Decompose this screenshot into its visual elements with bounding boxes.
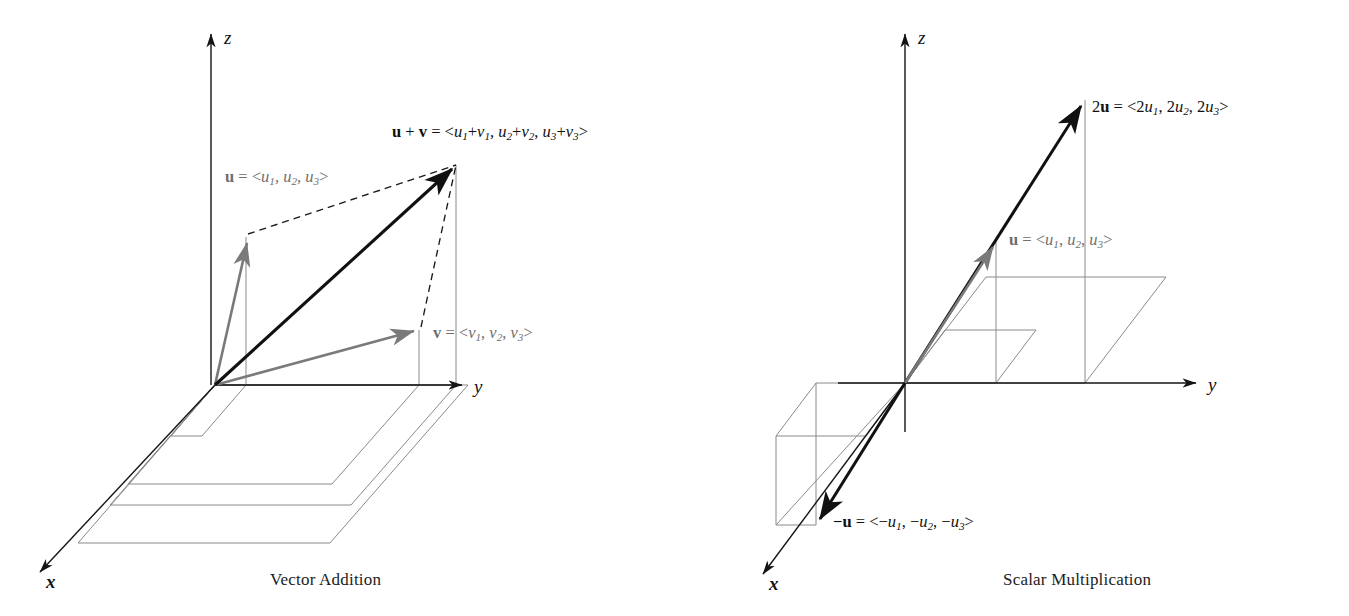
vector-neg-u-right	[820, 383, 905, 519]
label-u-left-c3: u	[305, 167, 313, 186]
label-u-left: u = <u1, u2, u3>	[225, 169, 328, 186]
label-v-left-c2: v	[489, 323, 496, 342]
dashed-construction-left	[248, 165, 456, 327]
label-neg-u-c3: u	[951, 512, 959, 531]
label-neg-u-minus: −	[833, 512, 842, 531]
label-u-plus-v-p1: +	[468, 122, 477, 141]
label-u-left-eq: = <	[234, 167, 261, 186]
label-u-plus-v-close: >	[579, 122, 588, 141]
label-neg-u-prefix: u	[842, 512, 851, 531]
label-v-left-prefix: v	[433, 323, 441, 342]
label-neg-u-m3: −	[941, 512, 950, 531]
z-axis-label-left: z	[223, 27, 232, 48]
label-u-plus-v-c1a: u	[454, 122, 462, 141]
label-u-plus-v: u + v = <u1+v1, u2+v2, u3+v3>	[392, 124, 588, 141]
label-2u-k1: 2	[1136, 97, 1144, 116]
label-u-right-c3: u	[1089, 230, 1097, 249]
y-axis-label-right: y	[1206, 374, 1217, 395]
axes-left	[40, 34, 462, 572]
label-neg-u-c1: u	[888, 512, 896, 531]
label-u-right: u = <u1, u2, u3>	[1009, 232, 1112, 249]
label-2u-eq: = <	[1109, 97, 1136, 116]
x-axis-label-right: x	[768, 573, 779, 594]
label-2u-sep1: ,	[1158, 97, 1166, 116]
label-2u-close: >	[1219, 97, 1228, 116]
vector-u-left	[215, 243, 247, 385]
label-u-plus-v-p2: +	[512, 122, 521, 141]
label-2u-c3: u	[1205, 97, 1213, 116]
x-axis-left	[40, 385, 215, 572]
label-v-left-sep2: ,	[502, 323, 510, 342]
label-u-plus-v-c3b: v	[566, 122, 573, 141]
label-neg-u-right: −u = <−u1, −u2, −u3>	[833, 514, 974, 531]
label-v-left-eq: = <	[441, 323, 468, 342]
label-u-left-prefix: u	[225, 167, 234, 186]
projection-boxes-right	[776, 100, 1166, 525]
sum-ground-box-left	[110, 385, 456, 505]
dash-v-to-sum-left	[421, 165, 456, 327]
label-u-plus-v-eq: = <	[427, 122, 454, 141]
label-u-left-sep1: ,	[275, 167, 283, 186]
label-u-plus-v-u: u	[392, 122, 401, 141]
diagram-canvas: z y x	[0, 0, 1349, 616]
label-neg-u-m1: −	[878, 512, 887, 531]
x-axis-label-left: x	[45, 571, 56, 592]
projection-boxes-left	[78, 165, 468, 543]
label-u-plus-v-v: v	[419, 122, 427, 141]
label-2u-right: 2u = <2u1, 2u2, 2u3>	[1092, 99, 1228, 116]
label-u-right-prefix: u	[1009, 230, 1018, 249]
label-2u-c1: u	[1145, 97, 1153, 116]
label-2u-sep2: ,	[1189, 97, 1197, 116]
y-axis-label-left: y	[472, 376, 483, 397]
panel-vector-addition: z y x	[40, 27, 483, 592]
label-2u-k2: 2	[1167, 97, 1175, 116]
caption-vector-addition: Vector Addition	[270, 570, 381, 590]
label-neg-u-close: >	[964, 512, 973, 531]
label-u-plus-v-plus: +	[401, 122, 419, 141]
vector-u-right	[905, 247, 993, 383]
label-u-plus-v-c2b: v	[521, 122, 528, 141]
z-axis-label-right: z	[917, 27, 926, 48]
label-neg-u-eq: = <	[852, 512, 879, 531]
label-neg-u-sep1: ,	[902, 512, 910, 531]
label-v-left-close: >	[523, 323, 532, 342]
ground-parallelogram-left	[78, 385, 468, 543]
label-2u-scalar: 2	[1092, 97, 1100, 116]
label-v-left-c3: v	[511, 323, 518, 342]
label-2u-c2: u	[1175, 97, 1183, 116]
label-neg-u-m2: −	[910, 512, 919, 531]
figure-root: z y x	[0, 0, 1349, 616]
label-u-left-close: >	[319, 167, 328, 186]
label-u-right-close: >	[1103, 230, 1112, 249]
label-u-plus-v-sep1: ,	[490, 122, 498, 141]
negu-diag-right	[776, 383, 905, 525]
caption-scalar-multiplication: Scalar Multiplication	[1003, 570, 1151, 590]
label-v-left: v = <v1, v2, v3>	[433, 325, 533, 342]
label-u-plus-v-p3: +	[556, 122, 565, 141]
label-u-plus-v-sep2: ,	[534, 122, 542, 141]
x-axis-right	[763, 383, 905, 574]
label-u-plus-v-c3a: u	[543, 122, 551, 141]
label-u-right-sep1: ,	[1059, 230, 1067, 249]
label-u-right-eq: = <	[1018, 230, 1045, 249]
